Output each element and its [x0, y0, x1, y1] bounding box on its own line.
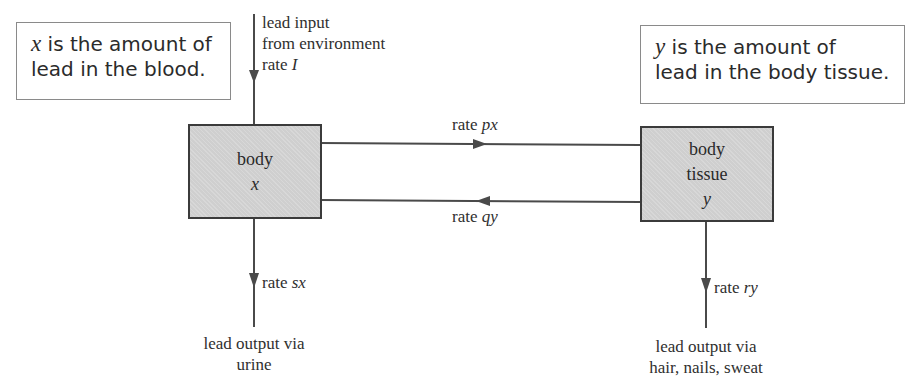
- lead-compartment-diagram: x is the amount of lead in the blood. y …: [0, 0, 915, 392]
- compartment-body: body x: [188, 124, 322, 219]
- compartment-body-tissue: body tissue y: [640, 126, 774, 222]
- px-rate-label: rate px: [452, 114, 498, 135]
- input-rate: rate I: [262, 54, 385, 75]
- qy-arrowhead-icon: [476, 196, 490, 206]
- note-tissue-line2: lead in the body tissue.: [655, 60, 890, 85]
- ry-arrowhead-icon: [701, 278, 711, 293]
- input-arrowhead-icon: [249, 70, 259, 83]
- note-blood-line1: x is the amount of: [31, 31, 216, 57]
- ry-output-label: lead output via hair, nails, sweat: [626, 336, 786, 378]
- px-arrowhead-icon: [473, 139, 487, 149]
- note-tissue-line1: y is the amount of: [655, 34, 890, 60]
- note-blood: x is the amount of lead in the blood.: [16, 22, 231, 100]
- qy-rate-label: rate qy: [452, 206, 498, 227]
- note-blood-line2: lead in the blood.: [31, 57, 216, 82]
- sx-output-label: lead output via urine: [194, 333, 314, 375]
- sx-rate-label: rate sx: [262, 272, 306, 293]
- sx-arrowhead-icon: [249, 273, 259, 288]
- input-label: lead input from environment rate I: [262, 12, 385, 75]
- ry-rate-label: rate ry: [714, 277, 758, 298]
- note-tissue: y is the amount of lead in the body tiss…: [640, 25, 905, 104]
